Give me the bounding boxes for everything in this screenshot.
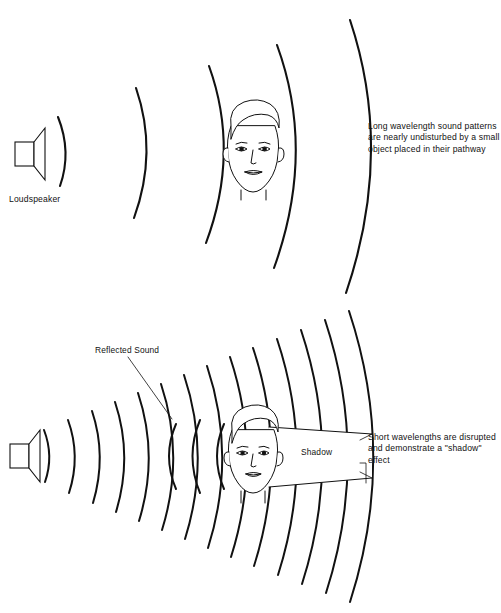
- long-wavelength-annotation: Long wavelength sound patterns are nearl…: [368, 121, 500, 155]
- human-head-icon: [223, 100, 284, 200]
- loudspeaker-icon: [15, 128, 45, 180]
- wavefront-arc-group-upper: [58, 20, 371, 293]
- loudspeaker-icon-lower: [10, 430, 40, 482]
- human-head-icon-lower: [224, 405, 283, 503]
- reflected-sound-leader-line: [128, 357, 172, 419]
- loudspeaker-label: Loudspeaker: [9, 194, 60, 205]
- reflected-sound-label: Reflected Sound: [95, 345, 159, 356]
- figure-canvas: Loudspeaker Long wavelength sound patter…: [0, 0, 501, 613]
- diagram-svg: [0, 0, 501, 613]
- short-wavelength-annotation: Short wavelengths are disrupted and demo…: [368, 432, 501, 466]
- shadow-label: Shadow: [301, 447, 332, 458]
- reflected-arc-group: [169, 420, 224, 493]
